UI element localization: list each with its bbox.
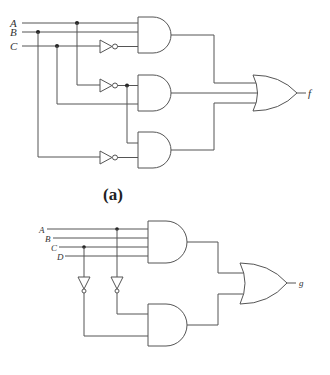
or-gate-icon — [240, 263, 287, 304]
and-gate-icon — [148, 304, 187, 346]
and-gate-icon — [138, 75, 171, 111]
and-gate-icon — [148, 221, 187, 263]
not-gate-icon — [78, 277, 90, 293]
and-gate-icon — [138, 132, 171, 168]
output-label-g: g — [299, 278, 304, 288]
and-gate-icon — [138, 17, 171, 53]
input-label-c: C — [10, 40, 18, 52]
figure-caption-a: (a) — [103, 185, 123, 204]
input-label-a: A — [38, 225, 45, 235]
circuit-b: A B C D — [38, 221, 304, 346]
or-gate-icon — [253, 75, 297, 111]
logic-circuit-diagrams: A B C — [0, 0, 330, 375]
input-label-d: D — [56, 252, 64, 262]
circuit-a: A B C — [9, 17, 313, 168]
input-label-b: B — [10, 26, 17, 38]
not-gate-icon — [100, 79, 118, 92]
not-gate-icon — [111, 277, 123, 293]
not-gate-icon — [100, 40, 118, 53]
output-label-f: f — [308, 87, 313, 99]
not-gate-icon — [100, 151, 118, 164]
